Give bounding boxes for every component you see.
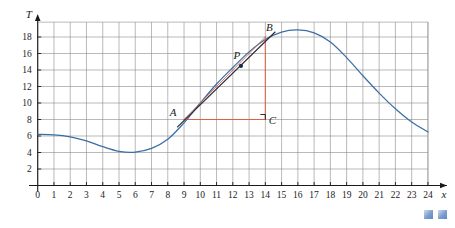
x-tick-label-15: 15 (277, 190, 287, 200)
x-tick-label-20: 20 (358, 190, 368, 200)
x-tick-label-18: 18 (326, 190, 336, 200)
x-tick-label-3: 3 (84, 190, 89, 200)
x-tick-label-13: 13 (244, 190, 254, 200)
x-tick-label-4: 4 (100, 190, 105, 200)
temperature-vs-time-chart: Tx01234567891011121314151617181920212223… (0, 0, 455, 228)
x-tick-label-8: 8 (165, 190, 170, 200)
x-tick-label-2: 2 (68, 190, 73, 200)
tangent-line-at-P (178, 32, 276, 127)
point-label-A: A (169, 106, 177, 118)
x-axis-title: x (441, 188, 447, 200)
x-tick-label-6: 6 (133, 190, 138, 200)
point-label-C: C (269, 114, 277, 126)
x-tick-label-19: 19 (342, 190, 352, 200)
x-tick-label-22: 22 (391, 190, 401, 200)
y-tick-label-2: 2 (27, 164, 32, 174)
x-tick-label-14: 14 (261, 190, 271, 200)
decorative-square-left (424, 210, 433, 219)
point-dot-P (239, 64, 243, 68)
x-tick-label-11: 11 (212, 190, 221, 200)
y-tick-label-4: 4 (27, 148, 32, 158)
y-axis-title: T (26, 8, 33, 20)
secant-line-AB (184, 37, 265, 120)
y-tick-label-14: 14 (22, 65, 32, 75)
y-tick-label-6: 6 (27, 131, 32, 141)
y-tick-label-16: 16 (22, 49, 32, 59)
x-tick-label-9: 9 (182, 190, 187, 200)
chart-figure: Tx01234567891011121314151617181920212223… (0, 0, 455, 228)
x-tick-label-21: 21 (374, 190, 384, 200)
point-label-P: P (233, 49, 241, 61)
y-axis-arrow (35, 14, 41, 21)
x-tick-label-1: 1 (52, 190, 57, 200)
x-tick-label-23: 23 (407, 190, 417, 200)
point-label-B: B (266, 21, 273, 33)
x-tick-label-10: 10 (196, 190, 206, 200)
y-tick-label-12: 12 (22, 82, 32, 92)
y-tick-label-10: 10 (22, 98, 32, 108)
y-tick-label-8: 8 (27, 115, 32, 125)
x-tick-label-12: 12 (228, 190, 238, 200)
right-angle-marker-at-C (260, 115, 265, 120)
decorative-square-right (438, 210, 447, 219)
y-tick-label-18: 18 (22, 32, 32, 42)
x-tick-label-16: 16 (293, 190, 303, 200)
x-tick-label-7: 7 (149, 190, 154, 200)
x-tick-label-17: 17 (309, 190, 319, 200)
x-tick-label-5: 5 (117, 190, 122, 200)
x-tick-label-0: 0 (35, 190, 40, 200)
x-tick-label-24: 24 (423, 190, 433, 200)
